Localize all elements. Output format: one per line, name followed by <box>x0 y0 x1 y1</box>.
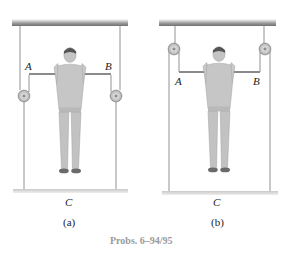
ceiling <box>159 19 276 26</box>
sublabel-b: (b) <box>211 216 224 229</box>
pulley-left <box>18 90 30 102</box>
pulley-left <box>168 43 180 55</box>
platform <box>13 189 128 193</box>
figure-caption: Probs. 6–94/95 <box>110 235 173 246</box>
label-c-point: C <box>213 196 221 208</box>
label-b-point: B <box>105 60 112 72</box>
person <box>54 48 86 174</box>
pulley-right <box>259 43 271 55</box>
pulley-right <box>110 90 122 102</box>
platform <box>162 191 278 195</box>
label-a-point: A <box>174 75 182 87</box>
sublabel-a: (a) <box>63 216 76 229</box>
panel-a: A B C (a) <box>12 19 128 229</box>
person <box>203 47 235 173</box>
figure-canvas: A B C (a) A B C (b) Probs. 6–94/95 <box>0 0 292 260</box>
label-c-point: C <box>65 196 73 208</box>
label-b-point: B <box>253 75 260 87</box>
ceiling <box>12 19 128 26</box>
panel-b: A B C (b) <box>159 19 278 229</box>
label-a-point: A <box>24 60 32 72</box>
